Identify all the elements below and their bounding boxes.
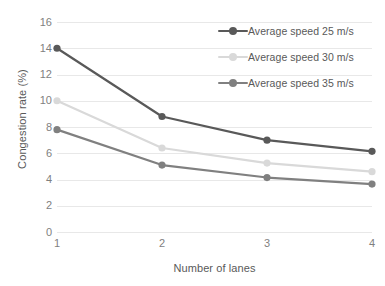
series-line (57, 101, 372, 172)
x-tick-label: 2 (142, 238, 182, 249)
legend-label: Average speed 35 m/s (248, 77, 354, 89)
x-axis-tick-labels: 1234 (57, 238, 372, 254)
legend-swatch-icon (218, 51, 248, 63)
congestion-rate-line-chart: Congestion rate (%) 0246810121416 1234 N… (0, 0, 385, 286)
y-tick-label: 0 (18, 227, 52, 238)
y-tick-label: 14 (18, 43, 52, 54)
legend-label: Average speed 30 m/s (248, 51, 354, 63)
data-point-marker (368, 180, 375, 187)
y-tick-label: 16 (18, 17, 52, 28)
data-point-marker (158, 144, 165, 151)
x-axis-title: Number of lanes (57, 262, 372, 274)
y-axis-tick-labels: 0246810121416 (14, 22, 52, 232)
y-tick-label: 12 (18, 69, 52, 80)
y-tick-label: 2 (18, 200, 52, 211)
data-point-marker (263, 137, 270, 144)
y-tick-label: 8 (18, 122, 52, 133)
legend-label: Average speed 25 m/s (248, 25, 354, 37)
y-tick-label: 6 (18, 148, 52, 159)
data-point-marker (368, 148, 375, 155)
legend-item[interactable]: Average speed 30 m/s (218, 44, 378, 70)
data-point-marker (53, 45, 60, 52)
legend: Average speed 25 m/sAverage speed 30 m/s… (218, 18, 378, 96)
data-point-marker (263, 159, 270, 166)
legend-item[interactable]: Average speed 35 m/s (218, 70, 378, 96)
legend-item[interactable]: Average speed 25 m/s (218, 18, 378, 44)
y-tick-label: 10 (18, 95, 52, 106)
data-point-marker (263, 174, 270, 181)
series-2 (53, 97, 375, 175)
data-point-marker (158, 113, 165, 120)
x-tick-label: 1 (37, 238, 77, 249)
data-point-marker (368, 168, 375, 175)
gridline (57, 232, 372, 233)
data-point-marker (53, 126, 60, 133)
series-3 (53, 126, 375, 188)
legend-swatch-icon (218, 77, 248, 89)
data-point-marker (158, 161, 165, 168)
y-tick-label: 4 (18, 174, 52, 185)
legend-swatch-icon (218, 25, 248, 37)
x-tick-label: 4 (352, 238, 385, 249)
series-line (57, 130, 372, 184)
x-tick-label: 3 (247, 238, 287, 249)
data-point-marker (53, 97, 60, 104)
